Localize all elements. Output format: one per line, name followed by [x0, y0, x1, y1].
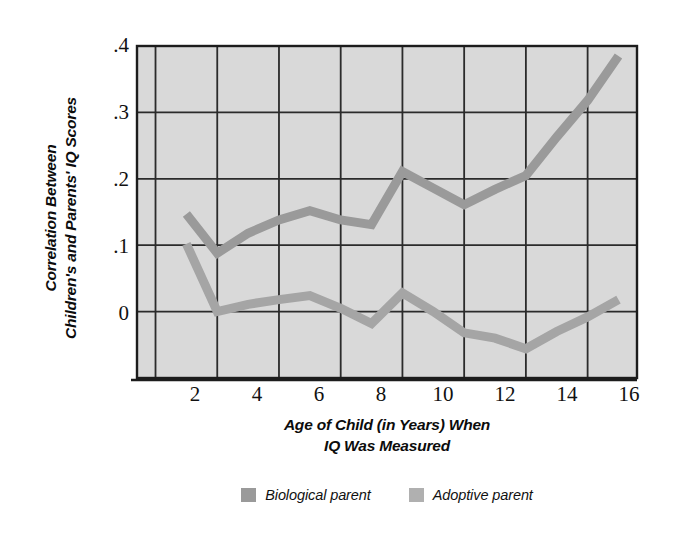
legend-item-adoptive: Adoptive parent: [409, 487, 533, 503]
legend-swatch-biological-icon: [241, 488, 256, 502]
legend-item-biological: Biological parent: [241, 487, 371, 503]
x-axis-title-line-1: Age of Child (in Years) When: [137, 414, 637, 435]
legend-label-biological: Biological parent: [265, 487, 371, 503]
chart-legend: Biological parent Adoptive parent: [137, 487, 637, 503]
chart-figure: Correlation Between Children's and Paren…: [0, 0, 686, 553]
x-axis-title-line-2: IQ Was Measured: [137, 435, 637, 456]
x-axis-title: Age of Child (in Years) When IQ Was Meas…: [137, 414, 637, 456]
legend-label-adoptive: Adoptive parent: [433, 487, 533, 503]
plot-area: [0, 0, 686, 553]
legend-swatch-adoptive-icon: [409, 488, 424, 502]
